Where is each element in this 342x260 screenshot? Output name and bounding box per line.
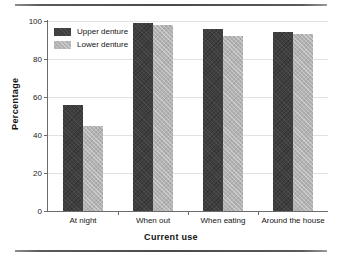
x-axis-tick-mark (118, 211, 119, 215)
y-axis-tick-label: 0 (0, 207, 42, 216)
y-axis-tick-label: 100 (0, 17, 42, 26)
bar (153, 25, 173, 211)
y-axis-title: Percentage (10, 77, 20, 130)
legend-label-upper-denture: Upper denture (77, 27, 128, 36)
figure: Percentage 020406080100 At nightWhen out… (0, 0, 342, 260)
figure-top-rule (15, 4, 327, 6)
bar (203, 29, 223, 211)
x-axis-tick-label: Around the house (261, 216, 324, 225)
figure-bottom-rule (15, 250, 327, 252)
y-axis-tick-mark (44, 173, 48, 174)
bar (293, 34, 313, 211)
bar-group (203, 21, 242, 211)
bar (273, 32, 293, 211)
bar (223, 36, 243, 211)
legend-item-upper-denture: Upper denture (54, 25, 128, 38)
y-axis-tick-label: 40 (0, 131, 42, 140)
x-axis-tick-mark (258, 211, 259, 215)
x-axis-tick-mark (188, 211, 189, 215)
x-axis-tick-label: At night (69, 216, 96, 225)
y-axis-tick-mark (44, 135, 48, 136)
bar (133, 23, 153, 211)
y-axis-tick-mark (44, 211, 48, 212)
x-axis-tick-label: When out (136, 216, 170, 225)
bar (63, 105, 83, 211)
y-axis-tick-label: 20 (0, 169, 42, 178)
y-axis-tick-mark (44, 59, 48, 60)
bar-group (133, 21, 172, 211)
legend-swatch-upper-denture (54, 28, 71, 36)
y-axis-tick-mark (44, 97, 48, 98)
bar-group (273, 21, 312, 211)
bar (83, 126, 103, 212)
y-axis-tick-mark (44, 21, 48, 22)
y-axis-tick-label: 80 (0, 55, 42, 64)
x-axis-tick-label: When eating (201, 216, 246, 225)
legend: Upper denture Lower denture (54, 25, 128, 51)
x-axis-title: Current use (0, 232, 342, 242)
y-axis-tick-label: 60 (0, 93, 42, 102)
legend-label-lower-denture: Lower denture (77, 40, 128, 49)
legend-swatch-lower-denture (54, 41, 71, 49)
legend-item-lower-denture: Lower denture (54, 38, 128, 51)
